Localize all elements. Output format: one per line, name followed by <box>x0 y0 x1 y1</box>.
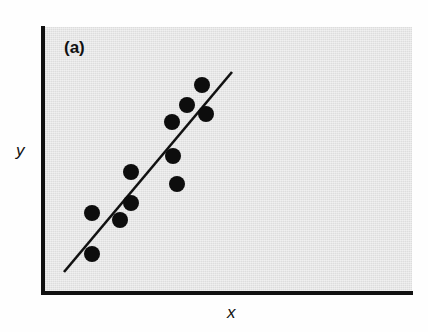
scatter-plot-figure: (a) y x <box>0 0 428 332</box>
y-axis-line <box>41 26 45 295</box>
panel-label: (a) <box>64 38 85 58</box>
y-axis-label: y <box>16 141 25 161</box>
plot-area-background <box>44 27 412 293</box>
x-axis-label: x <box>227 303 236 323</box>
x-axis-line <box>41 291 413 295</box>
